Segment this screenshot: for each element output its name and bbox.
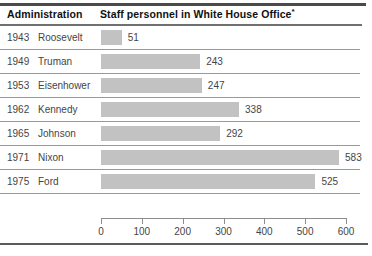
row-year: 1953 <box>7 80 29 91</box>
table-row: 1943Roosevelt51 <box>0 26 362 50</box>
x-axis-tick <box>142 218 143 224</box>
bar-value-label: 247 <box>208 80 225 91</box>
row-administration-name: Kennedy <box>38 104 77 115</box>
bar-value-label: 525 <box>321 176 338 187</box>
x-axis-tick <box>224 218 225 224</box>
table-top-rule <box>0 3 366 6</box>
white-house-staff-chart: Administration Staff personnel in White … <box>0 0 372 256</box>
x-axis-tick-label: 100 <box>133 226 150 237</box>
x-axis-tick-label: 200 <box>174 226 191 237</box>
x-axis-tick-label: 500 <box>297 226 314 237</box>
table-row: 1953Eisenhower247 <box>0 74 362 98</box>
x-axis-tick-label: 300 <box>215 226 232 237</box>
table-row: 1962Kennedy338 <box>0 98 362 122</box>
bar-value-label: 51 <box>128 32 139 43</box>
x-axis-tick <box>183 218 184 224</box>
row-year: 1971 <box>7 152 29 163</box>
x-axis: 0100200300400500600 <box>0 218 362 244</box>
bar <box>101 78 202 93</box>
x-axis-tick-label: 0 <box>98 226 104 237</box>
x-axis-tick <box>264 218 265 224</box>
column-header-administration: Administration <box>7 8 82 20</box>
row-administration-name: Johnson <box>38 128 76 139</box>
x-axis-tick-label: 400 <box>256 226 273 237</box>
bar-value-label: 338 <box>245 104 262 115</box>
row-separator <box>0 193 360 194</box>
bar <box>101 54 200 69</box>
x-axis-tick <box>346 218 347 224</box>
bar-value-label: 583 <box>345 152 362 163</box>
table-row: 1975Ford525 <box>0 170 362 194</box>
table-row: 1965Johnson292 <box>0 122 362 146</box>
table-header: Administration Staff personnel in White … <box>0 8 366 24</box>
bar-value-label: 243 <box>206 56 223 67</box>
x-axis-tick <box>305 218 306 224</box>
bar-value-label: 292 <box>226 128 243 139</box>
column-header-staff-personnel-text: Staff personnel in White House Office <box>100 8 292 20</box>
row-year: 1962 <box>7 104 29 115</box>
bar <box>101 126 220 141</box>
column-header-staff-personnel: Staff personnel in White House Office* <box>100 8 295 20</box>
row-administration-name: Ford <box>38 176 59 187</box>
x-axis-tick <box>101 218 102 224</box>
row-year: 1943 <box>7 32 29 43</box>
row-year: 1949 <box>7 56 29 67</box>
row-administration-name: Eisenhower <box>38 80 90 91</box>
bar <box>101 30 122 45</box>
table-row: 1971Nixon583 <box>0 146 362 170</box>
row-administration-name: Roosevelt <box>38 32 82 43</box>
bar <box>101 174 315 189</box>
x-axis-tick-label: 600 <box>338 226 355 237</box>
row-year: 1975 <box>7 176 29 187</box>
footnote-marker-asterisk: * <box>292 7 295 16</box>
row-year: 1965 <box>7 128 29 139</box>
table-row: 1949Truman243 <box>0 50 362 74</box>
table-bottom-rule <box>0 243 368 245</box>
row-administration-name: Truman <box>38 56 72 67</box>
row-administration-name: Nixon <box>38 152 64 163</box>
bar <box>101 150 339 165</box>
bar <box>101 102 239 117</box>
